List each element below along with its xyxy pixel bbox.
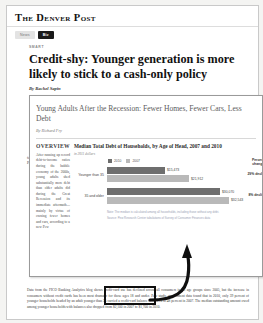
bar-2010	[107, 167, 165, 174]
percent-change-header: Percent change	[246, 158, 263, 167]
nav-item-news[interactable]: News	[15, 31, 35, 39]
report-overview-column: OVERVIEW After running up record debt-to…	[30, 143, 74, 231]
percent-change-value: 8% decline	[244, 193, 263, 197]
chart-title: Median Total Debt of Households, by Age …	[74, 143, 263, 150]
bar-value-label: $15,473	[167, 168, 179, 172]
report-title: Young Adults After the Recession: Fewer …	[36, 104, 256, 124]
screenshot-root: The Denver Post News Biz SMART Credit-sh…	[0, 0, 263, 323]
legend-label-2007: 2007	[132, 159, 140, 163]
highlight-box-annotation	[104, 286, 156, 305]
article-byline: By Rachel Sapin	[29, 86, 236, 91]
bars-container: $15,473 $21,912	[107, 167, 243, 183]
report-byline: By Richard Fry	[36, 128, 256, 133]
bar-row-2010: $15,473	[107, 167, 243, 174]
overview-paragraph: After running up record debt-to-income r…	[36, 153, 70, 231]
article-headline: Credit-shy: Younger generation is more l…	[29, 52, 236, 82]
divider	[36, 138, 256, 139]
chart-source: Source: Pew Research Center tabulations …	[107, 216, 263, 220]
bar-row-2007: $21,912	[107, 175, 243, 182]
legend-swatch-icon	[108, 159, 112, 163]
bar-value-label: $21,912	[191, 177, 203, 181]
category-label: Younger than 35	[74, 173, 104, 177]
bar-2010	[107, 188, 220, 195]
legend-item-2007: 2007	[126, 159, 140, 163]
chart-legend: 2010 2007 Percent change	[74, 159, 263, 163]
category-label: 35 and older	[74, 194, 104, 198]
legend-item-2010: 2010	[108, 159, 122, 163]
legend-swatch-icon	[126, 159, 130, 163]
bar-2007	[107, 175, 189, 182]
overview-heading: OVERVIEW	[36, 143, 70, 149]
chart-column: Median Total Debt of Households, by Age …	[74, 143, 263, 231]
bar-row-2007: $32,543	[107, 197, 243, 204]
chart-note: Note: The median is calculated among all…	[107, 210, 263, 214]
chart-plot-area: Younger than 35 $15,473 $21,912 29%	[74, 167, 263, 204]
report-overlay-panel: Young Adults After the Recession: Fewer …	[29, 95, 263, 277]
article-kicker: SMART	[29, 45, 258, 49]
bar-value-label: $32,543	[231, 198, 243, 202]
legend-label-2010: 2010	[114, 159, 122, 163]
bar-group-younger-than-35: Younger than 35 $15,473 $21,912 29%	[74, 167, 263, 183]
bar-value-label: $30,070	[222, 190, 234, 194]
masthead: The Denver Post	[7, 6, 258, 27]
bar-2007	[107, 197, 229, 204]
nav-item-biz[interactable]: Biz	[38, 31, 54, 39]
site-nav: News Biz	[7, 27, 258, 41]
bar-group-35-and-older: 35 and older $30,070 $32,543 8% decl	[74, 188, 263, 204]
percent-change-value: 29% decline	[244, 172, 263, 176]
site-logo[interactable]: The Denver Post	[15, 12, 250, 23]
chart-subtitle: in 2011 dollars	[74, 152, 263, 156]
bars-container: $30,070 $32,543	[107, 188, 243, 204]
report-columns: OVERVIEW After running up record debt-to…	[30, 143, 262, 231]
bar-row-2010: $30,070	[107, 188, 243, 195]
